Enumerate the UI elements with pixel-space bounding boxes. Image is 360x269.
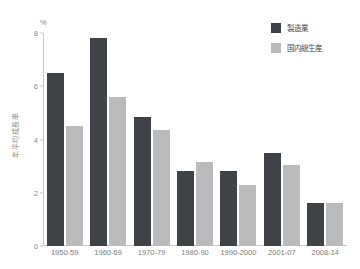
legend-label: 製造業 [287, 22, 308, 33]
y-axis-tick-label: 4 [34, 135, 38, 144]
bar-gdp [153, 130, 170, 246]
bar-gdp [283, 165, 300, 246]
bar-manufacturing [90, 38, 107, 246]
bar-manufacturing [177, 171, 194, 246]
x-axis-label: 1970-79 [130, 248, 173, 257]
x-axis-label: 1980-90 [173, 248, 216, 257]
y-axis-tick-label: 6 [34, 82, 38, 91]
legend-item[interactable]: 製造業 [271, 22, 322, 33]
bar-groups [43, 33, 347, 246]
bar-gdp [239, 185, 256, 246]
bar-manufacturing [307, 203, 324, 246]
legend-swatch-icon [271, 23, 281, 33]
bar-gdp [196, 162, 213, 246]
bar-chart: % 年平均成長率 02468 1950-591960-691970-791980… [0, 0, 360, 269]
bar-group [86, 33, 129, 246]
bar-group [304, 33, 347, 246]
y-axis-unit-label: % [40, 18, 47, 27]
bar-group [217, 33, 260, 246]
bar-manufacturing [47, 73, 64, 246]
y-axis-tick-label: 2 [34, 188, 38, 197]
bar-manufacturing [134, 117, 151, 246]
bar-group [43, 33, 86, 246]
y-axis-title: 年平均成長率 [10, 112, 20, 157]
bar-gdp [109, 97, 126, 246]
x-axis-label: 1950-59 [43, 248, 86, 257]
x-axis-label: 1960-69 [86, 248, 129, 257]
x-axis-label: 1990-2000 [217, 248, 260, 257]
legend-swatch-icon [271, 43, 281, 53]
bar-gdp [326, 203, 343, 246]
x-axis-label: 2008-14 [304, 248, 347, 257]
bar-group [260, 33, 303, 246]
legend-label: 国内総生産 [287, 42, 322, 53]
bar-group [130, 33, 173, 246]
bar-group [173, 33, 216, 246]
x-axis-labels: 1950-591960-691970-791980-901990-2000200… [43, 248, 347, 257]
chart-legend: 製造業国内総生産 [271, 22, 322, 62]
bar-gdp [66, 126, 83, 246]
x-axis-label: 2001-07 [260, 248, 303, 257]
bar-manufacturing [264, 153, 281, 246]
bar-manufacturing [220, 171, 237, 246]
y-axis-tick-label: 8 [34, 29, 38, 38]
y-axis-tick-label: 0 [34, 242, 38, 251]
legend-item[interactable]: 国内総生産 [271, 42, 322, 53]
plot-area: 02468 [43, 33, 347, 246]
